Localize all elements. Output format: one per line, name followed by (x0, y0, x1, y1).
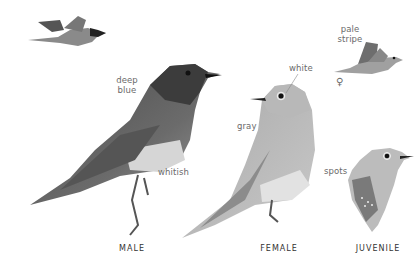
female-bird-icon (182, 74, 315, 238)
label-spots: spots (324, 166, 347, 176)
label-deep: deep (112, 75, 142, 85)
label-stripe: stripe (333, 34, 367, 44)
label-pale-stripe: pale stripe (333, 24, 367, 44)
flying-female-icon (334, 42, 403, 74)
label-gray: gray (237, 121, 257, 131)
caption-female: FEMALE (254, 244, 304, 253)
label-whitish: whitish (158, 167, 189, 177)
flying-male-icon (28, 16, 106, 46)
caption-male: MALE (112, 244, 152, 253)
field-guide-plate: deep blue whitish white gray spots pale … (0, 0, 420, 264)
juvenile-bird-icon (348, 148, 414, 232)
label-white: white (289, 63, 313, 73)
female-symbol: ♀ (336, 77, 343, 87)
label-pale: pale (333, 24, 367, 34)
label-blue: blue (112, 85, 142, 95)
label-deep-blue: deep blue (112, 75, 142, 95)
caption-juvenile: JUVENILE (348, 244, 408, 253)
